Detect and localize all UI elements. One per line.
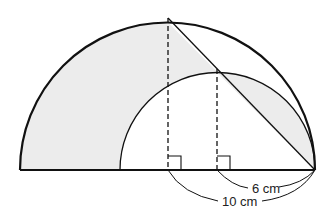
right-angle-mark-2 [217, 156, 230, 170]
label-10cm: 10 cm [222, 194, 257, 209]
right-angle-mark-1 [168, 156, 181, 170]
dimension-arc-10cm [168, 170, 218, 201]
geometry-diagram: 6 cm 10 cm [0, 0, 335, 220]
dimension-arc-6cm [217, 170, 248, 188]
